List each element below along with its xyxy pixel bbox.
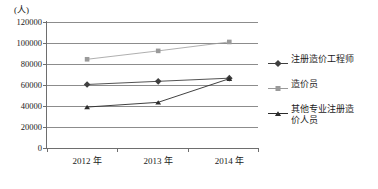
x-axis-tick-label: 2013 年 bbox=[130, 156, 186, 166]
data-point-marker bbox=[156, 49, 161, 54]
legend-item-label: 造价员 bbox=[291, 79, 376, 90]
y-axis-tick bbox=[43, 43, 47, 44]
legend-item-label: 其他专业注册造 价人员 bbox=[291, 104, 376, 126]
x-axis-tick-label: 2014 年 bbox=[201, 156, 257, 166]
line-chart: (人) 020000400006000080000100000120000 注册… bbox=[0, 0, 378, 189]
data-point-marker bbox=[85, 57, 90, 62]
y-axis-tick bbox=[43, 127, 47, 128]
square-marker-icon bbox=[268, 80, 288, 91]
series-2 bbox=[85, 40, 232, 62]
legend-item-1[interactable]: 注册造价工程师 bbox=[268, 54, 376, 66]
y-axis-tick bbox=[43, 64, 47, 65]
data-point-marker bbox=[155, 78, 162, 85]
x-axis-tick bbox=[117, 148, 118, 152]
triangle-marker-icon bbox=[268, 105, 288, 116]
legend-item-2[interactable]: 造价员 bbox=[268, 79, 376, 91]
diamond-marker-icon bbox=[268, 55, 288, 66]
y-axis-tick bbox=[43, 22, 47, 23]
x-axis-tick bbox=[258, 148, 259, 152]
data-point-marker bbox=[227, 40, 232, 45]
data-point-marker bbox=[84, 81, 91, 88]
legend-item-3[interactable]: 其他专业注册造 价人员 bbox=[268, 104, 376, 126]
legend: 注册造价工程师造价员其他专业注册造 价人员 bbox=[268, 54, 376, 139]
x-axis-tick bbox=[47, 148, 48, 152]
series-1 bbox=[84, 75, 233, 88]
legend-item-label: 注册造价工程师 bbox=[291, 54, 376, 65]
x-axis-tick bbox=[188, 148, 189, 152]
y-axis-tick bbox=[43, 85, 47, 86]
y-axis-tick bbox=[43, 106, 47, 107]
x-axis-tick-label: 2012 年 bbox=[59, 156, 115, 166]
